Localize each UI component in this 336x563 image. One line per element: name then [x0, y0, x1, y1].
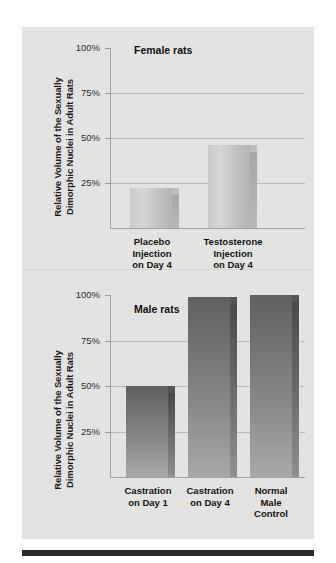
x-category-line-3: Control	[236, 508, 306, 520]
y-tick-label-25-male: 25%	[60, 426, 100, 437]
bar-face	[188, 297, 230, 477]
x-category-label-normal-male-control: Normal Male Control	[236, 485, 306, 520]
x-category-line-1: Placebo	[112, 236, 192, 248]
y-axis-male	[110, 295, 111, 478]
bar-side-face	[292, 302, 299, 477]
x-category-line-1: Testosterone	[188, 236, 278, 248]
bar-castration-day1	[126, 386, 168, 477]
x-category-line-1: Normal	[236, 485, 306, 497]
y-tick-label-75-female: 75%	[60, 87, 100, 98]
y-axis-female	[110, 48, 111, 229]
bar-top-face	[172, 188, 179, 195]
gridline-75-female	[111, 93, 305, 94]
y-tick-label-75-male: 75%	[60, 335, 100, 346]
x-category-line-3: on Day 4	[112, 259, 192, 271]
bar-side-face	[230, 304, 237, 477]
x-axis-male	[110, 477, 305, 478]
x-category-line-2: Injection	[112, 248, 192, 260]
x-category-label-testosterone: Testosterone Injection on Day 4	[188, 236, 278, 271]
bar-face	[208, 145, 250, 228]
x-category-line-3: on Day 4	[188, 259, 278, 271]
gridline-50-female	[111, 138, 305, 139]
panel-caption-male: Male rats	[134, 303, 180, 315]
x-axis-female	[110, 228, 305, 229]
bar-face	[130, 188, 172, 228]
bar-normal-male-control	[250, 295, 292, 477]
bar-side-face	[172, 195, 179, 228]
figure-bottom-rule	[22, 550, 314, 556]
bar-side-face	[168, 393, 175, 477]
y-tick-label-50-female: 50%	[60, 132, 100, 143]
bar-placebo-injection-day4	[130, 188, 172, 228]
figure-bar-chart-sdn-volume: Relative Volume of the Sexually Dimorphi…	[0, 0, 336, 563]
y-axis-title-male: Relative Volume of the Sexually Dimorphi…	[52, 335, 75, 505]
bar-top-face	[230, 297, 237, 304]
bar-testosterone-injection-day4	[208, 145, 250, 228]
bar-side-face	[250, 152, 257, 228]
x-category-line-2: Injection	[188, 248, 278, 260]
y-tick-label-100-male: 100%	[60, 289, 100, 300]
y-tick-label-50-male: 50%	[60, 380, 100, 391]
panel-male-rats: Relative Volume of the Sexually Dimorphi…	[22, 270, 314, 539]
bar-top-face	[292, 295, 299, 302]
bar-top-face	[168, 386, 175, 393]
x-category-label-placebo: Placebo Injection on Day 4	[112, 236, 192, 271]
bar-face	[250, 295, 292, 477]
bar-top-face	[250, 145, 257, 152]
bar-castration-day4	[188, 297, 230, 477]
panel-female-rats: Relative Volume of the Sexually Dimorphi…	[22, 27, 314, 269]
bar-face	[126, 386, 168, 477]
x-category-line-2: Male	[236, 497, 306, 509]
y-tick-label-25-female: 25%	[60, 177, 100, 188]
panel-caption-female: Female rats	[134, 44, 192, 56]
y-tick-label-100-female: 100%	[60, 42, 100, 53]
